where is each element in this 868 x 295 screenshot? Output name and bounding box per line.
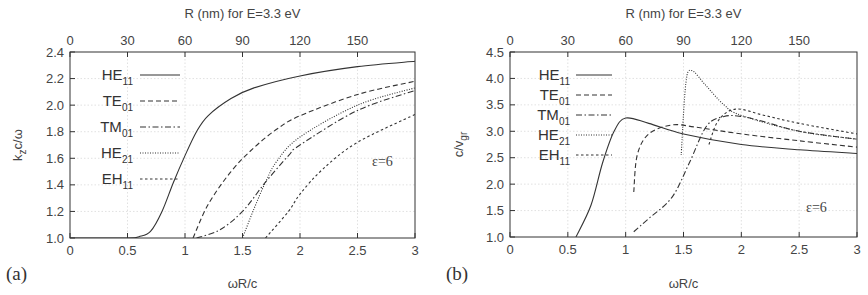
x-tick-label: 2.5	[790, 242, 808, 257]
panel-a-chart: 00.511.522.531.01.21.41.61.82.02.22.4030…	[6, 6, 419, 291]
x-tick-label: 0.5	[118, 243, 136, 258]
curve-eh11	[709, 109, 857, 145]
curve-he11	[576, 118, 857, 237]
top-x-tick-label: 30	[561, 33, 575, 48]
y-tick-label: 2.4	[46, 45, 64, 60]
x-tick-label: 1.5	[674, 242, 692, 257]
panel-label: (a)	[6, 263, 27, 285]
x-tick-label: 0.5	[559, 242, 577, 257]
y-tick-label: 3.0	[486, 124, 504, 139]
x-tick-label: 0	[66, 243, 73, 258]
y-tick-label: 1.0	[46, 231, 64, 246]
legend-label: TE01	[540, 86, 571, 107]
x-tick-label: 1.5	[233, 243, 251, 258]
top-x-tick-label: 0	[66, 33, 73, 48]
top-x-tick-label: 90	[235, 33, 249, 48]
legend-label: HE11	[102, 66, 134, 87]
x-tick-label: 2	[738, 242, 745, 257]
x-axis-title: ωR/c	[228, 276, 258, 291]
legend-label: EH11	[539, 146, 571, 167]
x-tick-label: 2.5	[348, 243, 366, 258]
x-tick-label: 2	[296, 243, 303, 258]
y-tick-label: 1.5	[486, 203, 504, 218]
y-tick-label: 4.0	[486, 71, 504, 86]
epsilon-annotation: ε=6	[372, 154, 393, 169]
y-tick-label: 2.2	[46, 71, 64, 86]
legend: HE11TE01TM01HE21EH11	[100, 66, 180, 191]
y-axis-title: kzc/ω	[10, 129, 28, 161]
y-tick-label: 1.0	[486, 230, 504, 245]
epsilon-annotation: ε=6	[806, 200, 827, 215]
legend-label: HE21	[101, 144, 133, 165]
y-tick-label: 1.8	[46, 124, 64, 139]
legend-label: HE11	[539, 66, 571, 87]
y-tick-label: 4.5	[486, 45, 504, 60]
y-axis-title: c/vgr	[451, 131, 469, 157]
y-tick-label: 2.0	[46, 98, 64, 113]
panel-label: (b)	[446, 263, 468, 285]
legend-label: EH11	[102, 170, 134, 191]
y-tick-label: 3.5	[486, 97, 504, 112]
legend-label: TM01	[100, 118, 133, 139]
y-tick-label: 1.6	[46, 151, 64, 166]
legend-label: TM01	[537, 106, 570, 127]
legend-label: HE21	[538, 126, 570, 147]
x-tick-label: 1	[181, 243, 188, 258]
top-x-tick-label: 60	[618, 33, 632, 48]
top-x-tick-label: 0	[506, 33, 513, 48]
y-tick-label: 2.0	[486, 177, 504, 192]
y-tick-label: 2.5	[486, 150, 504, 165]
top-x-tick-label: 120	[289, 33, 311, 48]
top-x-tick-label: 60	[178, 33, 192, 48]
figure: 00.511.522.531.01.21.41.61.82.02.22.4030…	[0, 0, 868, 295]
top-x-tick-label: 150	[347, 33, 369, 48]
y-tick-label: 1.4	[46, 177, 64, 192]
x-tick-label: 0	[506, 242, 513, 257]
x-tick-label: 3	[853, 242, 860, 257]
top-axis-title: R (nm) for E=3.3 eV	[626, 6, 742, 21]
top-x-tick-label: 30	[120, 33, 134, 48]
top-axis-title: R (nm) for E=3.3 eV	[185, 6, 301, 21]
y-tick-label: 1.2	[46, 204, 64, 219]
x-tick-label: 1	[622, 242, 629, 257]
top-x-tick-label: 90	[676, 33, 690, 48]
top-x-tick-label: 150	[788, 33, 810, 48]
curve-eh11	[266, 114, 416, 238]
x-axis-title: ωR/c	[669, 276, 699, 291]
top-x-tick-label: 120	[730, 33, 752, 48]
panel-b-chart: 00.511.522.531.01.52.02.53.03.54.04.5030…	[446, 6, 861, 291]
x-tick-label: 3	[411, 243, 418, 258]
legend-label: TE01	[103, 92, 134, 113]
legend: HE11TE01TM01HE21EH11	[537, 66, 612, 167]
curve-he21	[681, 70, 857, 155]
